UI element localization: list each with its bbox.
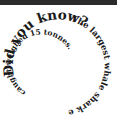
spiral-text-graphic: Did you know? The largest whale shark ev…: [0, 0, 117, 124]
